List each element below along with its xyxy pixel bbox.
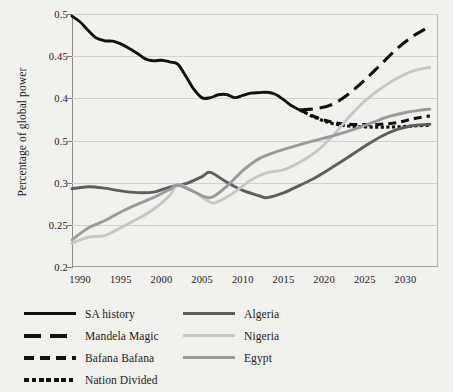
y-tick-label: 0.4 — [22, 93, 68, 104]
legend: SA historyMandela MagicBafana BafanaNati… — [24, 303, 444, 389]
legend-label: Nigeria — [244, 330, 279, 342]
legend-swatch-icon — [183, 308, 235, 320]
legend-swatch-icon — [183, 352, 235, 364]
y-tick-label: 0.5 — [22, 9, 68, 20]
plot-frame — [72, 14, 438, 267]
legend-label: Bafana Bafana — [85, 352, 154, 364]
legend-swatch-icon — [24, 374, 76, 386]
series-lines — [72, 14, 438, 267]
legend-item[interactable]: SA history — [24, 303, 159, 325]
legend-label: SA history — [85, 308, 135, 320]
legend-swatch-icon — [24, 352, 76, 364]
x-tick-label: 2010 — [220, 274, 266, 285]
legend-item[interactable]: Nation Divided — [24, 369, 159, 391]
chart-area: Percentage of global power 0.50.450.40.5… — [0, 0, 453, 300]
x-tick-label: 2030 — [382, 274, 428, 285]
legend-label: Egypt — [244, 352, 272, 364]
legend-item[interactable]: Mandela Magic — [24, 325, 159, 347]
x-tick-label: 1990 — [57, 274, 103, 285]
series-line — [72, 124, 430, 197]
x-tick-label: 2015 — [260, 274, 306, 285]
y-tick-label: 0.2 — [22, 262, 68, 273]
x-tick-label: 2025 — [342, 274, 388, 285]
x-tick-label: 2020 — [301, 274, 347, 285]
x-tick-label: 2005 — [179, 274, 225, 285]
legend-item[interactable]: Algeria — [183, 303, 279, 325]
y-tick-label: 0.45 — [22, 51, 68, 62]
x-tick-label: 1995 — [98, 274, 144, 285]
legend-label: Mandela Magic — [85, 330, 159, 342]
legend-swatch-icon — [183, 330, 235, 342]
y-axis-title: Percentage of global power — [16, 32, 28, 232]
legend-item[interactable]: Nigeria — [183, 325, 279, 347]
y-tick-label: 0.3 — [22, 177, 68, 188]
legend-label: Algeria — [244, 308, 279, 320]
y-tick-label: 0.5 — [22, 135, 68, 146]
legend-column-left: SA historyMandela MagicBafana BafanaNati… — [24, 303, 159, 391]
series-line — [72, 16, 300, 110]
y-tick-label: 0.25 — [22, 219, 68, 230]
series-line — [300, 26, 430, 109]
x-tick-label: 2000 — [138, 274, 184, 285]
legend-column-right: AlgeriaNigeriaEgypt — [183, 303, 279, 369]
legend-swatch-icon — [24, 308, 76, 320]
figure: Percentage of global power 0.50.450.40.5… — [0, 0, 453, 392]
legend-swatch-icon — [24, 330, 76, 342]
legend-label: Nation Divided — [85, 374, 158, 386]
series-line — [72, 109, 430, 240]
y-tick-mark — [67, 267, 73, 268]
legend-item[interactable]: Egypt — [183, 347, 279, 369]
legend-item[interactable]: Bafana Bafana — [24, 347, 159, 369]
